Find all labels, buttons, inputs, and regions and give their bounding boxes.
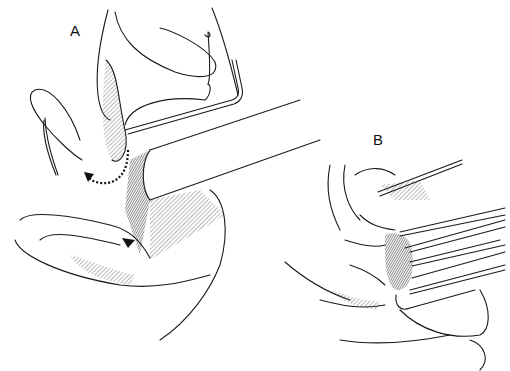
panel-b-drawing <box>285 160 505 370</box>
illustration <box>0 0 510 371</box>
panel-a-drawing <box>15 8 320 340</box>
